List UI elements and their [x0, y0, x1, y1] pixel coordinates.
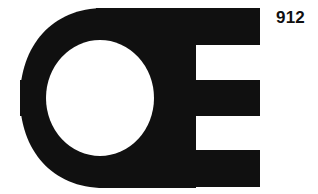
oe-monogram-logo	[0, 0, 318, 194]
logo-ink	[20, 8, 260, 188]
middle-bar	[20, 80, 260, 116]
image-canvas: 912	[0, 0, 318, 194]
reference-number: 912	[276, 9, 305, 26]
